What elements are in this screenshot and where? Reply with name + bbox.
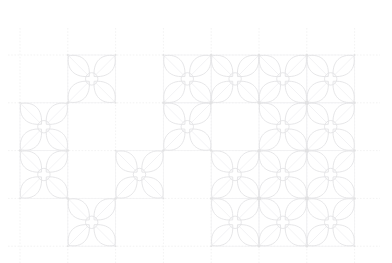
lattice-node-dot (19, 102, 21, 104)
lattice-node-dot (67, 102, 70, 105)
lattice-node-dot (353, 149, 356, 152)
lattice-node-dot (306, 245, 309, 248)
lattice-node-dot (258, 54, 261, 57)
lattice-node-dot (257, 196, 261, 200)
lattice-node-dot (115, 150, 117, 152)
lattice-node-dot (115, 245, 117, 247)
lattice-node-dot (353, 102, 356, 105)
pattern-canvas (0, 0, 392, 263)
lattice-node-dot (163, 54, 165, 56)
lattice-node-dot (305, 101, 309, 105)
lattice-node-dot (258, 245, 261, 248)
lattice-node-dot (67, 245, 69, 247)
lattice-node-dot (257, 149, 260, 152)
lattice-node-dot (162, 149, 165, 152)
lattice-node-dot (210, 101, 213, 104)
lattice-node-dot (210, 54, 213, 57)
lattice-node-dot (306, 54, 309, 57)
lattice-node-dot (19, 149, 22, 152)
lattice-node-dot (67, 54, 69, 56)
lattice-node-dot (115, 54, 117, 56)
lattice-node-dot (210, 197, 213, 200)
lattice-node-dot (305, 149, 309, 153)
lattice-node-dot (115, 102, 117, 104)
lattice-node-dot (257, 101, 260, 104)
lattice-node-dot (67, 197, 70, 200)
lattice-node-dot (163, 198, 165, 200)
lattice-node-dot (210, 149, 213, 152)
lattice-node-dot (354, 54, 356, 56)
flower-lattice-diagram (0, 0, 392, 263)
lattice-node-dot (114, 197, 117, 200)
lattice-node-dot (162, 102, 165, 105)
lattice-node-dot (353, 197, 356, 200)
lattice-node-dot (354, 245, 356, 247)
lattice-node-dot (210, 245, 212, 247)
lattice-node-dot (67, 149, 70, 152)
lattice-node-dot (19, 198, 21, 200)
lattice-node-dot (305, 196, 309, 200)
